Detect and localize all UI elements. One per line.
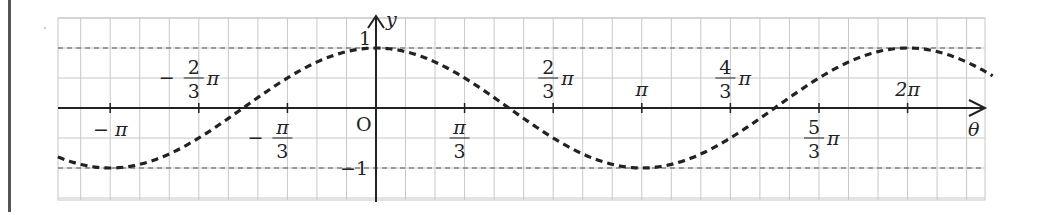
x-tick-label-prefix: − — [247, 126, 263, 148]
cosine-graph: − π−23π−π3π323ππ43π53π2π y θ O 1 −1 — [0, 0, 1037, 215]
x-tick-label-numerator: 4 — [719, 56, 731, 78]
x-tick-label-denominator: 3 — [542, 80, 554, 102]
x-tick-label-numerator: 2 — [542, 56, 554, 78]
x-tick-label: π — [635, 78, 649, 100]
x-tick-label-denominator: 3 — [188, 80, 200, 102]
axes — [58, 16, 985, 202]
x-tick-label-denominator: 3 — [719, 80, 731, 102]
labels: y θ O 1 −1 — [340, 8, 980, 179]
x-tick-label-denominator: 3 — [454, 140, 466, 162]
x-tick-label-prefix: − — [159, 66, 175, 88]
x-tick-label-suffix: π — [737, 67, 751, 89]
x-tick-label-suffix: π — [560, 67, 574, 89]
origin-label: O — [356, 113, 372, 135]
x-tick-label-numerator: 2 — [188, 56, 200, 78]
x-tick-label-suffix: π — [826, 127, 840, 149]
x-tick-label-suffix: π — [206, 67, 220, 89]
x-tick-label-numerator: 5 — [808, 116, 820, 138]
y-tick-label-1: 1 — [359, 27, 371, 49]
x-tick-label: 2π — [894, 78, 920, 100]
x-tick-label-numerator: π — [452, 116, 466, 138]
x-axis-label: θ — [968, 118, 980, 140]
y-axis-label: y — [385, 8, 397, 30]
x-tick-label-numerator: π — [275, 116, 289, 138]
x-tick-label: − π — [93, 118, 128, 140]
x-tick-label-denominator: 3 — [808, 140, 820, 162]
y-tick-label-neg1: −1 — [340, 157, 368, 179]
x-tick-label-denominator: 3 — [276, 140, 288, 162]
